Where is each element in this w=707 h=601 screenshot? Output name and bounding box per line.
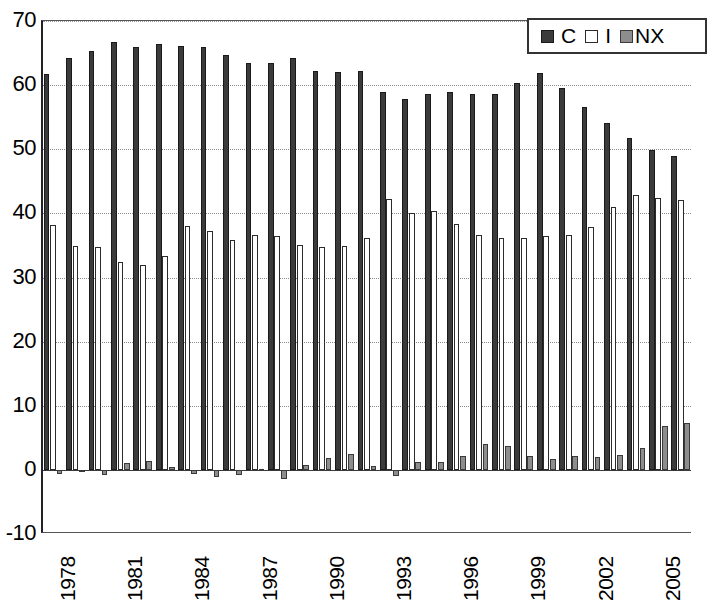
bar-group (290, 21, 312, 532)
y-tick-label-30: 30 (0, 264, 36, 290)
y-tick-label--10: -10 (0, 520, 36, 546)
bar-group (334, 21, 356, 532)
bar-group (648, 21, 670, 532)
bar-i (319, 247, 325, 470)
bar-c (425, 94, 431, 470)
bar-i (611, 207, 617, 470)
bar-nx (393, 470, 399, 476)
bar-c (201, 47, 207, 470)
bar-c (470, 94, 476, 470)
bar-group (110, 21, 132, 532)
bar-c (402, 99, 408, 470)
bar-nx (303, 465, 309, 470)
plot-area (41, 20, 691, 533)
bar-i (431, 211, 437, 470)
bar-c (335, 72, 341, 470)
x-tick-label-1981: 1981 (123, 556, 147, 601)
bar-group (43, 21, 65, 532)
x-tick-label-1996: 1996 (459, 556, 483, 601)
bar-nx (460, 456, 466, 470)
bar-nx (326, 458, 332, 470)
bar-nx (684, 423, 690, 470)
bar-c (246, 63, 252, 470)
bar-i (185, 226, 191, 470)
bar-group (133, 21, 155, 532)
bar-c (223, 55, 229, 470)
bar-group (581, 21, 603, 532)
bar-nx (415, 462, 421, 470)
bar-i (252, 235, 258, 470)
legend-item-i: I (585, 24, 611, 48)
bar-i (118, 262, 124, 470)
bar-i (543, 236, 549, 469)
bar-i (476, 235, 482, 470)
legend-item-nx: NX (620, 24, 664, 48)
bar-group (424, 21, 446, 532)
bar-nx (595, 457, 601, 470)
bar-nx (57, 470, 63, 474)
bar-group (155, 21, 177, 532)
legend-item-c: C (541, 24, 576, 48)
bar-nx (662, 426, 668, 470)
bar-c (66, 58, 72, 470)
bar-c (559, 88, 565, 470)
y-tick-label-20: 20 (0, 328, 36, 354)
bar-c (268, 63, 274, 470)
bar-i (566, 235, 572, 470)
bar-i (95, 247, 101, 470)
bar-group (491, 21, 513, 532)
bar-i (364, 238, 370, 469)
bar-i (50, 225, 56, 470)
bar-c (604, 123, 610, 470)
bar-i (499, 238, 505, 470)
bar-group (177, 21, 199, 532)
bar-group (357, 21, 379, 532)
legend-label-nx: NX (635, 24, 664, 48)
bar-nx (527, 456, 533, 469)
bar-c (627, 138, 633, 470)
bar-c (492, 94, 498, 470)
bar-nx (550, 459, 556, 470)
bar-c (290, 58, 296, 470)
bar-nx (348, 454, 354, 470)
legend-swatch-c-icon (541, 30, 554, 43)
legend-label-i: I (605, 24, 611, 48)
bar-group (671, 21, 693, 532)
bar-i (297, 245, 303, 470)
bar-nx (438, 462, 444, 470)
bar-group (379, 21, 401, 532)
bar-group (559, 21, 581, 532)
bar-group (65, 21, 87, 532)
bar-i (386, 199, 392, 470)
bar-c (133, 47, 139, 470)
bar-group (222, 21, 244, 532)
bar-nx (505, 446, 511, 470)
bar-i (230, 240, 236, 470)
bar-nx (483, 444, 489, 470)
bar-c (178, 46, 184, 470)
bar-c (514, 83, 520, 470)
bar-nx (124, 463, 130, 469)
bar-nx (191, 470, 197, 474)
bar-nx (102, 470, 108, 475)
bar-group (446, 21, 468, 532)
bar-group (469, 21, 491, 532)
bar-nx (617, 455, 623, 470)
bar-group (603, 21, 625, 532)
bar-nx (236, 470, 242, 475)
legend-swatch-nx-icon (620, 30, 633, 43)
bar-i (73, 246, 79, 470)
bar-c (89, 51, 95, 470)
chart-legend: C I NX (527, 18, 707, 54)
bar-nx (79, 470, 85, 473)
bar-c (447, 92, 453, 470)
bar-group (267, 21, 289, 532)
bar-groups (43, 21, 691, 532)
x-tick-label-1993: 1993 (392, 556, 416, 601)
bar-c (582, 107, 588, 470)
bar-group (200, 21, 222, 532)
bar-c (313, 71, 319, 470)
y-tick-label-40: 40 (0, 199, 36, 225)
y-tick-label-70: 70 (0, 7, 36, 33)
